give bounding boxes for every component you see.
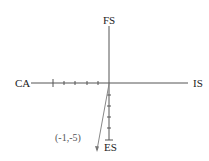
- point-label: (-1,-5): [55, 132, 81, 144]
- label-ca: CA: [15, 77, 30, 89]
- quadrant-diagram: CA IS FS ES (-1,-5): [0, 0, 209, 161]
- label-is: IS: [193, 77, 203, 89]
- label-es: ES: [104, 141, 117, 153]
- label-fs: FS: [103, 14, 115, 26]
- arrowhead-icon: [95, 146, 99, 152]
